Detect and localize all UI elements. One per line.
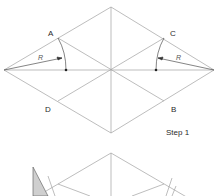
- point-label-b: B: [171, 105, 176, 114]
- point-label-c: C: [170, 29, 176, 38]
- right-center-dot: [155, 69, 158, 72]
- diagram-canvas: A C D B R R Step 1: [0, 0, 214, 196]
- point-label-d: D: [45, 105, 51, 114]
- right-radius-construction: [156, 38, 214, 70]
- step1-rhombus: [4, 7, 214, 133]
- left-radius-construction: [4, 38, 66, 70]
- radius-label-left: R: [38, 54, 43, 61]
- step2-rhombus-partial: [0, 153, 214, 196]
- triangle-ruler-shape: [33, 167, 48, 196]
- left-center-dot: [65, 69, 68, 72]
- step-label: Step 1: [166, 128, 190, 137]
- radius-label-right: R: [176, 54, 181, 61]
- point-label-a: A: [48, 29, 54, 38]
